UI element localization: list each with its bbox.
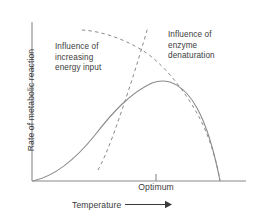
annotation-enzyme-denaturation: Influence of enzyme denaturation bbox=[168, 30, 215, 62]
chart-plot-area bbox=[0, 0, 260, 223]
arrow-right-icon-svg bbox=[125, 200, 173, 209]
arrow-right-icon bbox=[125, 200, 173, 211]
x-axis-title: Temperature bbox=[72, 200, 173, 211]
x-axis-title-text: Temperature bbox=[72, 200, 121, 210]
y-axis-title: Rate of metabolic reaction bbox=[26, 20, 36, 180]
annotation-energy-input: Influence of increasing energy input bbox=[55, 42, 101, 74]
x-axis-tick-label-optimum: Optimum bbox=[133, 182, 179, 192]
metabolic-rate-temperature-chart: Influence of increasing energy input Inf… bbox=[0, 0, 260, 223]
energy-input-dashed-curve bbox=[98, 27, 148, 170]
